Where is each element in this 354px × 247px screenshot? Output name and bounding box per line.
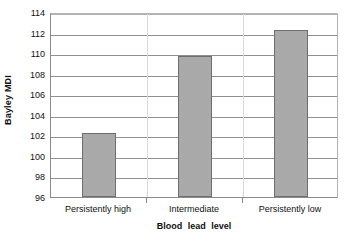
y-axis-title-text: Bayley MDI xyxy=(3,75,13,125)
gridline xyxy=(51,14,337,15)
bar xyxy=(82,133,116,197)
bar-chart: Bayley MDI 9698100102104106108110112114 … xyxy=(0,0,354,247)
y-axis-tick-labels: 9698100102104106108110112114 xyxy=(16,0,48,247)
y-axis-title: Bayley MDI xyxy=(0,0,16,200)
y-axis-tick-label: 100 xyxy=(15,153,45,162)
bar xyxy=(178,56,212,197)
y-axis-tick-label: 114 xyxy=(15,9,45,18)
y-axis-tick-label: 102 xyxy=(15,132,45,141)
y-axis-tick-label: 110 xyxy=(15,50,45,59)
x-axis-category-label: Persistently low xyxy=(242,203,338,215)
y-axis-tick-label: 106 xyxy=(15,91,45,100)
y-axis-tick-label: 112 xyxy=(15,30,45,39)
category-separator xyxy=(147,14,148,197)
category-separator xyxy=(243,14,244,197)
x-axis-category-label: Persistently high xyxy=(50,203,146,215)
x-axis-category-label: Intermediate xyxy=(146,203,242,215)
y-axis-tick-label: 104 xyxy=(15,112,45,121)
plot-area xyxy=(50,13,338,198)
bar xyxy=(274,30,308,197)
x-axis-category-labels: Persistently highIntermediatePersistentl… xyxy=(50,203,338,219)
y-axis-tick-label: 96 xyxy=(15,194,45,203)
y-axis-tick-label: 108 xyxy=(15,71,45,80)
x-axis-title: Blood lead level xyxy=(50,221,338,231)
y-axis-tick-label: 98 xyxy=(15,173,45,182)
